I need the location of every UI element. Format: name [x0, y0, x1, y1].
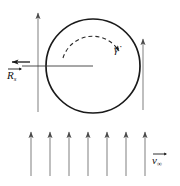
physics-diagram-figure: Rs γ̇ v∞: [0, 0, 180, 186]
shear-rate-label: γ̇: [114, 44, 118, 55]
uniform-flow-arrow-row: [31, 132, 145, 176]
velocity-subscript: ∞: [157, 160, 162, 167]
velocity-label: v∞: [152, 155, 162, 168]
radius-label: Rs: [7, 70, 16, 83]
radius-symbol: R: [7, 69, 14, 81]
rotation-arc-arrow: [63, 36, 119, 58]
radius-subscript: s: [14, 75, 17, 82]
